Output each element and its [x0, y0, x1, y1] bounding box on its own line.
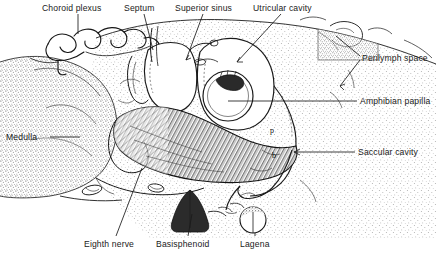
- label-amphibian-papilla: Amphibian papilla: [360, 96, 430, 106]
- label-medulla: Medulla: [6, 132, 37, 142]
- label-utricular-cavity: Utricular cavity: [253, 3, 312, 13]
- label-choroid-plexus: Choroid plexus: [42, 3, 101, 13]
- marker-b: b: [272, 151, 276, 160]
- label-eighth-nerve: Eighth nerve: [84, 239, 134, 249]
- illustration-canvas: [0, 0, 442, 256]
- label-perilymph-space: Perilymph space: [362, 53, 428, 63]
- figure-anatomical-section: Choroid plexus Septum Superior sinus Utr…: [0, 0, 442, 256]
- label-lagena: Lagena: [240, 239, 270, 249]
- label-septum: Septum: [124, 3, 155, 13]
- region-amphibian-papilla: [203, 70, 253, 121]
- label-basisphenoid: Basisphenoid: [156, 239, 209, 249]
- label-saccular-cavity: Saccular cavity: [358, 147, 418, 157]
- marker-p: p: [270, 126, 274, 135]
- label-superior-sinus: Superior sinus: [175, 3, 232, 13]
